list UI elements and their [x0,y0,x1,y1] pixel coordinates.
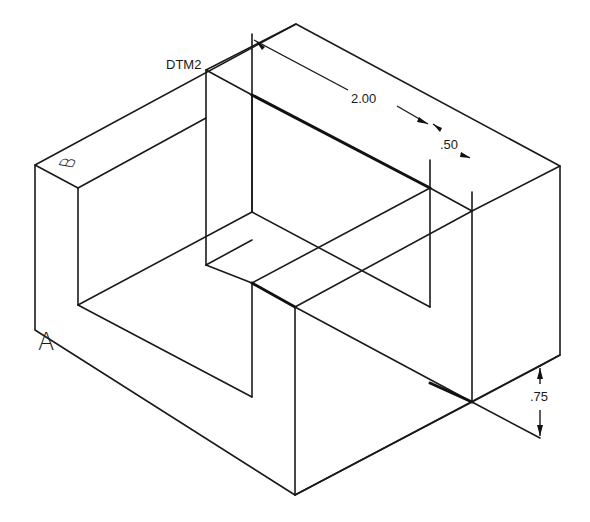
dimension-length-label: 2.00 [351,92,376,105]
datum-plane-dtm2 [206,24,296,283]
step-edges [252,283,560,495]
face-label-a: A [38,330,54,354]
dimension-2-00 [254,40,428,124]
dimension-offset-label: .50 [440,138,458,151]
datum-label: DTM2 [166,58,201,71]
dimension-height-label: .75 [530,390,548,403]
isometric-drawing [0,0,590,522]
inner-wall-edges [252,34,560,402]
